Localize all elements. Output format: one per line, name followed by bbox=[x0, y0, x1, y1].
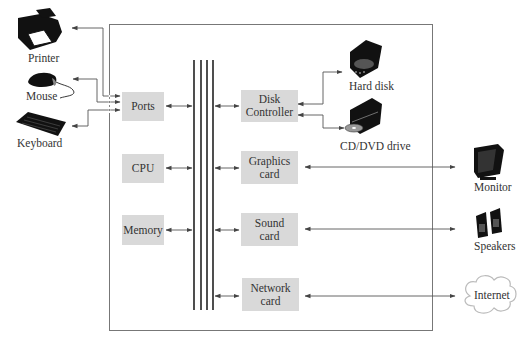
cd-dvd-drive-label: CD/DVD drive bbox=[340, 140, 411, 152]
network-card-label-2: card bbox=[261, 295, 281, 308]
speakers-label: Speakers bbox=[474, 240, 516, 252]
printer-connection bbox=[72, 28, 120, 96]
monitor-label: Monitor bbox=[474, 181, 512, 193]
ports-component: Ports bbox=[122, 92, 164, 121]
cpu-label: CPU bbox=[132, 162, 154, 175]
sound-card-label-2: card bbox=[260, 230, 280, 243]
system-bus bbox=[194, 60, 213, 310]
memory-component: Memory bbox=[122, 215, 164, 245]
keyboard-icon bbox=[16, 112, 66, 136]
hard-disk-connection bbox=[298, 72, 342, 104]
memory-label: Memory bbox=[123, 224, 163, 237]
hard-disk-icon bbox=[350, 40, 382, 78]
disk-controller-component: Disk Controller bbox=[241, 90, 298, 122]
speakers-icon bbox=[476, 208, 502, 238]
cpu-component: CPU bbox=[122, 154, 164, 183]
ports-label: Ports bbox=[131, 100, 155, 113]
disk-controller-label-2: Controller bbox=[246, 106, 293, 119]
mouse-label: Mouse bbox=[26, 90, 57, 102]
mouse-connection bbox=[73, 79, 120, 102]
internet-label: Internet bbox=[474, 289, 510, 301]
printer-icon bbox=[18, 8, 62, 50]
keyboard-label: Keyboard bbox=[17, 137, 62, 149]
monitor-icon bbox=[474, 144, 504, 180]
graphics-card-label-2: card bbox=[260, 168, 280, 181]
disk-controller-label-1: Disk bbox=[259, 93, 281, 106]
keyboard-connection bbox=[72, 110, 120, 126]
network-card-label-1: Network bbox=[250, 282, 290, 295]
sound-card-label-1: Sound bbox=[255, 217, 284, 230]
printer-label: Printer bbox=[28, 52, 59, 64]
graphics-card-label-1: Graphics bbox=[249, 155, 291, 168]
cd-drive-connection bbox=[298, 115, 344, 128]
hard-disk-label: Hard disk bbox=[349, 80, 394, 92]
sound-card-component: Sound card bbox=[241, 213, 298, 246]
graphics-card-component: Graphics card bbox=[241, 151, 298, 184]
network-card-component: Network card bbox=[242, 278, 299, 311]
cd-dvd-drive-icon bbox=[345, 98, 382, 134]
